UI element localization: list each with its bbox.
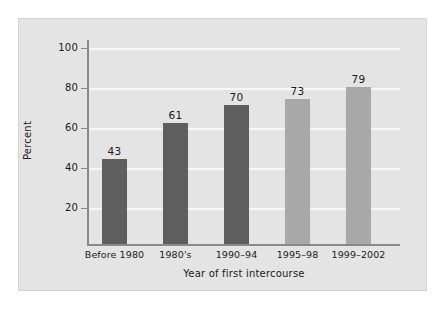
bar-1995-98: [285, 99, 310, 245]
y-axis-title: Percent: [22, 101, 33, 181]
x-tick-label-1980s: 1980's: [145, 249, 206, 260]
y-axis-line: [87, 40, 89, 246]
y-tick-mark-100: [81, 48, 88, 49]
y-tick-label-80-wrap: 80: [40, 82, 78, 94]
y-tick-label-20-wrap: 20: [40, 202, 78, 214]
y-tick-label-100: 100: [40, 42, 78, 53]
y-tick-mark-60: [81, 128, 88, 129]
y-tick-label-20: 20: [40, 202, 78, 213]
figure-container: 43 61 70 73 79 100 80 60 40 20 Before 19…: [0, 0, 445, 309]
gridline-100: [89, 48, 400, 50]
y-tick-label-60-wrap: 60: [40, 122, 78, 134]
y-tick-mark-20: [81, 208, 88, 209]
y-tick-label-40: 40: [40, 162, 78, 173]
bar-value-1990-94: 70: [224, 91, 249, 103]
y-tick-label-40-wrap: 40: [40, 162, 78, 174]
bar-1990-94: [224, 105, 249, 245]
x-tick-label-before-1980: Before 1980: [84, 249, 145, 260]
bar-1999-2002: [346, 87, 371, 245]
y-tick-label-60: 60: [40, 122, 78, 133]
y-tick-mark-40: [81, 168, 88, 169]
bar-value-1999-2002: 79: [346, 73, 371, 85]
x-axis-line: [87, 244, 400, 246]
y-tick-label-80: 80: [40, 82, 78, 93]
x-tick-label-1999-2002: 1999–2002: [328, 249, 389, 260]
bar-value-before-1980: 43: [102, 145, 127, 157]
bar-value-1980s: 61: [163, 109, 188, 121]
x-tick-label-1990-94: 1990–94: [206, 249, 267, 260]
bar-before-1980: [102, 159, 127, 245]
bar-1980s: [163, 123, 188, 245]
y-tick-label-100-wrap: 100: [40, 42, 78, 54]
x-tick-label-1995-98: 1995–98: [267, 249, 328, 260]
bar-value-1995-98: 73: [285, 85, 310, 97]
y-tick-mark-80: [81, 88, 88, 89]
plot-area: 43 61 70 73 79 100 80 60 40 20 Before 19…: [0, 0, 445, 309]
x-axis-title: Year of first intercourse: [88, 268, 400, 279]
